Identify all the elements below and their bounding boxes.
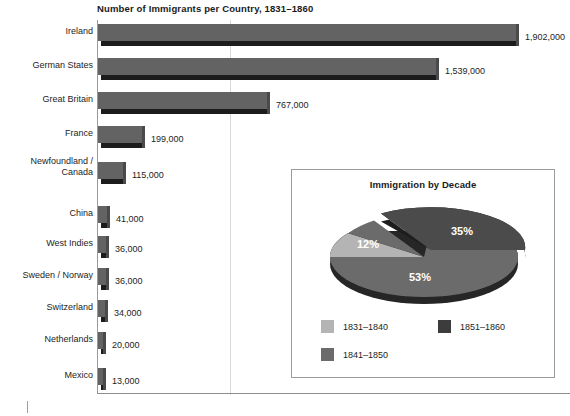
bar xyxy=(98,162,123,179)
pie-svg: 35% 12% 53% xyxy=(310,197,538,309)
bar-category-label: German States xyxy=(0,60,93,71)
bar-end-cap xyxy=(436,58,439,80)
bar xyxy=(98,332,103,349)
bar-end-cap xyxy=(106,236,109,258)
bar-end-cap xyxy=(516,24,519,46)
bar-value-label: 36,000 xyxy=(115,244,143,254)
legend-swatch-icon xyxy=(438,320,451,333)
axis-tick-mark xyxy=(27,401,28,413)
bar-depth-shadow xyxy=(101,143,145,148)
bar xyxy=(98,126,142,143)
bar xyxy=(98,58,436,75)
bar-category-label: West Indies xyxy=(0,238,93,249)
bar xyxy=(98,92,267,109)
bar-face xyxy=(98,92,267,109)
bar-face xyxy=(98,206,107,223)
bar-value-label: 13,000 xyxy=(112,376,140,386)
bar-end-cap xyxy=(106,268,109,290)
bar-value-label: 36,000 xyxy=(115,276,143,286)
pie-chart-graphic: 35% 12% 53% xyxy=(310,197,538,309)
pie-chart-inset-panel: Immigration by Decade xyxy=(291,169,555,378)
bar-category-label: Mexico xyxy=(0,370,93,381)
bar xyxy=(98,236,106,253)
bar-face xyxy=(98,300,105,317)
bar-category-label: Great Britain xyxy=(0,94,93,105)
bar-end-cap xyxy=(103,332,106,354)
bar-end-cap xyxy=(267,92,270,114)
bar-value-label: 1,539,000 xyxy=(445,66,485,76)
bar-face xyxy=(98,58,436,75)
bar-face xyxy=(98,236,106,253)
bar-face xyxy=(98,126,142,143)
bar xyxy=(98,206,107,223)
page-title: Number of Immigrants per Country, 1831–1… xyxy=(97,3,313,14)
pie-legend-label: 1851–1860 xyxy=(460,322,505,332)
bar-end-cap xyxy=(142,126,145,148)
bar-value-label: 199,000 xyxy=(151,134,184,144)
pie-legend-label: 1841–1850 xyxy=(343,350,388,360)
bar-category-label: China xyxy=(0,208,93,219)
legend-swatch-icon xyxy=(321,348,334,361)
pie-legend-label: 1831–1840 xyxy=(343,322,388,332)
bar-value-label: 20,000 xyxy=(112,340,140,350)
pie-label-1841-1850: 53% xyxy=(409,271,431,283)
pie-label-1851-1860: 35% xyxy=(451,225,473,237)
bar-end-cap xyxy=(123,162,126,184)
pie-legend-item-1841-1850: 1841–1850 xyxy=(321,348,388,361)
bar-depth-shadow xyxy=(101,41,519,46)
bar-category-label: Ireland xyxy=(0,26,93,37)
bar-face xyxy=(98,24,516,41)
bar-category-label: Sweden / Norway xyxy=(0,270,93,281)
bar-category-label: Netherlands xyxy=(0,334,93,345)
bar-category-label: France xyxy=(0,128,93,139)
pie-label-1831-1840: 12% xyxy=(357,238,379,250)
bar-depth-shadow xyxy=(101,75,439,80)
bar-value-label: 41,000 xyxy=(116,214,144,224)
immigration-chart-figure: Number of Immigrants per Country, 1831–1… xyxy=(0,0,570,416)
bar xyxy=(98,268,106,285)
bar-category-label: Switzerland xyxy=(0,302,93,313)
bar-end-cap xyxy=(103,368,106,390)
bar-face xyxy=(98,162,123,179)
bar-end-cap xyxy=(105,300,108,322)
bar-depth-shadow xyxy=(101,109,270,114)
pie-legend-item-1831-1840: 1831–1840 xyxy=(321,320,388,333)
bar xyxy=(98,300,105,317)
bar-value-label: 767,000 xyxy=(276,100,309,110)
bar-face xyxy=(98,268,106,285)
legend-swatch-icon xyxy=(321,320,334,333)
bar-value-label: 34,000 xyxy=(114,308,142,318)
bar xyxy=(98,368,103,385)
bar-end-cap xyxy=(107,206,110,228)
bar-value-label: 1,902,000 xyxy=(525,32,565,42)
pie-legend-item-1851-1860: 1851–1860 xyxy=(438,320,505,333)
bar-category-label: Newfoundland / Canada xyxy=(0,156,93,178)
pie-chart-title: Immigration by Decade xyxy=(292,179,554,190)
bar-value-label: 115,000 xyxy=(132,170,164,180)
bar xyxy=(98,24,516,41)
